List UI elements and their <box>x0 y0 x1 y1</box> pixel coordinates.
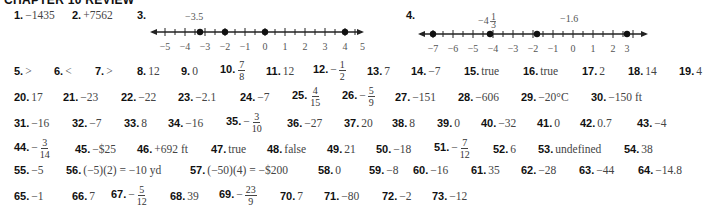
answer-40: 40.−32 <box>481 116 516 130</box>
answer-50: 50.−18 <box>376 142 411 156</box>
svg-text:−1: −1 <box>240 41 251 52</box>
svg-text:−4: −4 <box>180 41 191 52</box>
svg-text:5: 5 <box>360 41 365 52</box>
answer-7: 7.> <box>95 64 113 78</box>
answer-64: 64.−14.8 <box>638 163 682 177</box>
answer-46: 46.+692 ft <box>137 142 188 156</box>
number-line-4: −4 1 3 −1.6 −7−6−5 −4−3−2 −101 23 <box>418 12 648 56</box>
point-label: −3.5 <box>185 12 203 22</box>
svg-text:−7: −7 <box>428 43 439 54</box>
answer-9: 9.0 <box>181 64 198 78</box>
answer-28: 28.−606 <box>458 90 499 104</box>
answer-30: 30.−150 ft <box>591 90 642 104</box>
answer-70: 70.7 <box>280 189 303 203</box>
answer-12: 12.−12 <box>313 59 346 82</box>
svg-text:3: 3 <box>491 19 496 30</box>
point-label: −1.6 <box>560 13 578 24</box>
answer-24: 24.−7 <box>240 90 270 104</box>
answer-2: 2.+7562 <box>72 8 113 22</box>
svg-text:−4: −4 <box>488 43 499 54</box>
answer-61: 61.35 <box>471 163 500 177</box>
answer-60: 60.−16 <box>413 163 448 177</box>
answer-45: 45.−$25 <box>75 142 116 156</box>
svg-text:2: 2 <box>303 41 308 52</box>
svg-text:0: 0 <box>263 41 268 52</box>
answer-54: 54.38 <box>624 142 653 156</box>
answer-22: 22.−22 <box>121 90 156 104</box>
answer-19: 19.4 <box>679 64 702 78</box>
svg-text:−3: −3 <box>508 43 519 54</box>
svg-text:3: 3 <box>323 41 328 52</box>
answer-55: 55.−5 <box>14 163 44 177</box>
answer-41: 41.0 <box>537 116 560 130</box>
answer-33: 33.8 <box>124 116 147 130</box>
answer-48: 48.false <box>267 142 306 156</box>
svg-text:1: 1 <box>283 41 288 52</box>
answer-26: 26.−59 <box>342 85 375 108</box>
svg-text:3: 3 <box>625 43 630 54</box>
svg-text:−2: −2 <box>220 41 231 52</box>
answer-44: 44.−314 <box>14 137 50 160</box>
answer-31: 31.−16 <box>14 116 49 130</box>
answer-32: 32.−7 <box>72 116 102 130</box>
answer-65: 65.−1 <box>14 189 44 203</box>
answer-39: 39.0 <box>437 116 460 130</box>
answer-15: 15.true <box>464 64 499 78</box>
svg-text:−2: −2 <box>528 43 539 54</box>
svg-text:−1: −1 <box>548 43 559 54</box>
answer-43: 43.−4 <box>637 116 667 130</box>
answer-72: 72.−2 <box>382 189 412 203</box>
svg-text:−5: −5 <box>468 43 479 54</box>
answer-10: 10.78 <box>220 59 245 82</box>
answer-47: 47.true <box>211 142 246 156</box>
answer-62: 62.−28 <box>521 163 556 177</box>
answer-35: 35.−310 <box>226 111 262 134</box>
answer-36: 36.−27 <box>287 116 322 130</box>
answer-73: 73.−12 <box>432 189 467 203</box>
answer-49: 49.21 <box>327 142 356 156</box>
answer-63: 63.−44 <box>579 163 614 177</box>
svg-text:0: 0 <box>571 43 576 54</box>
svg-text:−6: −6 <box>448 43 459 54</box>
number-line-3-label: 3. <box>137 8 148 22</box>
answer-29: 29.−20°C <box>521 90 569 104</box>
svg-text:−3: −3 <box>200 41 211 52</box>
number-line-3: −3.5 −5−4−3 −2−10 123 45 <box>150 12 365 56</box>
number-line-4-label: 4. <box>406 8 417 22</box>
point-label: −4 <box>478 15 489 26</box>
answer-23: 23.−2.1 <box>178 90 216 104</box>
answer-56: 56.(−5)(2) = −10 yd <box>66 163 161 177</box>
answer-16: 16.true <box>523 64 558 78</box>
answer-13: 13.7 <box>367 64 390 78</box>
svg-text:4: 4 <box>343 41 348 52</box>
answer-42: 42.0.7 <box>580 116 612 130</box>
answer-1: 1.−1435 <box>14 8 55 22</box>
answer-11: 11.12 <box>266 64 294 78</box>
answer-5: 5.> <box>14 64 32 78</box>
answer-53: 53.undefined <box>538 142 601 156</box>
answer-37: 37.20 <box>344 116 373 130</box>
answer-17: 17.2 <box>582 64 605 78</box>
answer-18: 18.14 <box>628 64 657 78</box>
svg-text:−5: −5 <box>160 41 171 52</box>
answer-14: 14.−7 <box>411 64 441 78</box>
answer-21: 21.−23 <box>63 90 98 104</box>
answer-38: 38.8 <box>392 116 415 130</box>
answer-51: 51.−712 <box>434 137 470 160</box>
answer-25: 25.415 <box>292 85 320 108</box>
answer-57: 57.(−50)(4) = −$200 <box>190 163 288 177</box>
answer-27: 27.−151 <box>395 90 436 104</box>
answer-67: 67.−512 <box>111 184 147 207</box>
answer-6: 6.< <box>54 64 72 78</box>
chapter-header: CHAPTER 10 REVIEW <box>4 0 134 7</box>
answer-8: 8.12 <box>137 64 160 78</box>
answer-52: 52.6 <box>493 142 516 156</box>
answer-20: 20.17 <box>14 90 43 104</box>
answer-71: 71.−80 <box>324 189 359 203</box>
answer-66: 66.7 <box>72 189 95 203</box>
svg-text:2: 2 <box>611 43 616 54</box>
answer-34: 34.−16 <box>168 116 203 130</box>
svg-text:1: 1 <box>591 43 596 54</box>
answer-59: 59.−8 <box>369 163 399 177</box>
answer-58: 58.0 <box>318 163 341 177</box>
